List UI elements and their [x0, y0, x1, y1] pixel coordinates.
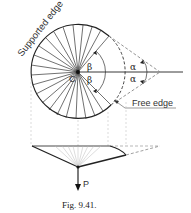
load-label: P — [83, 179, 89, 189]
elevation-view — [32, 146, 160, 169]
elevation-left-slope — [32, 146, 78, 167]
center-label: C — [69, 74, 76, 84]
alpha-bottom-label: α — [130, 74, 136, 84]
load-arrowhead — [75, 184, 81, 191]
load-arrow — [75, 167, 81, 191]
elevation-right-slope — [78, 155, 126, 167]
center-point — [76, 70, 80, 74]
alpha-top-label: α — [130, 62, 136, 72]
diagram-canvas: Supported edge Free edge C β β α α — [0, 0, 191, 213]
elevation-fan-lines — [55, 146, 101, 167]
elevation-dashed-extension — [126, 146, 160, 155]
beta-top-label: β — [87, 62, 92, 72]
free-edge-arc — [109, 36, 125, 105]
beta-bottom-label: β — [87, 75, 92, 85]
free-edge-label: Free edge — [132, 98, 173, 108]
elevation-free-edge-curve — [110, 146, 126, 155]
figure-caption: Fig. 9.41. — [62, 200, 97, 210]
projection-lines — [31, 78, 126, 146]
